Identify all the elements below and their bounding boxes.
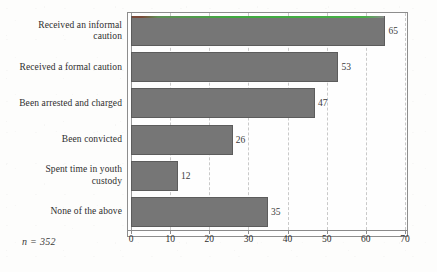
category-label: Received a formal caution [2,62,122,74]
x-axis-tick-labels: 010203040506070 [131,234,405,252]
category-label: Been convicted [2,134,122,146]
x-tick-label-20: 20 [205,234,215,244]
x-tick-label-10: 10 [165,234,175,244]
category-label-line: None of the above [2,206,122,218]
bar-value-label: 26 [233,134,246,144]
category-label: Received an informalcaution [2,20,122,43]
bar-row: 65 [131,16,405,46]
x-tick-label-30: 30 [244,234,254,244]
bar-row: 12 [131,161,405,191]
bar-row: 47 [131,88,405,118]
sample-size-annotation: n = 352 [22,236,56,247]
x-tick-label-0: 0 [129,234,134,244]
x-tick-label-70: 70 [400,234,410,244]
x-tick-label-60: 60 [361,234,371,244]
category-axis-labels: Received an informalcautionReceived a fo… [0,13,122,230]
gridline-70 [405,13,406,230]
category-label-line: Been arrested and charged [2,98,122,110]
bar-value-label: 65 [385,26,398,36]
category-label-line: Spent time in youth [2,164,122,176]
bar-row: 26 [131,125,405,155]
bar [131,197,268,227]
bar-row: 53 [131,52,405,82]
bar [131,16,385,46]
bar [131,125,233,155]
bar [131,52,338,82]
category-label-line: Received a formal caution [2,62,122,74]
bar-value-label: 12 [178,171,191,181]
x-tick-label-40: 40 [283,234,293,244]
bar-value-label: 47 [315,98,328,108]
category-label: Spent time in youthcustody [2,164,122,187]
bar [131,88,315,118]
x-tick-label-50: 50 [322,234,332,244]
bar-value-label: 53 [338,62,351,72]
category-label-line: custody [2,176,122,188]
category-label-line: caution [2,31,122,43]
category-label-line: Been convicted [2,134,122,146]
chart-page: Received an informalcautionReceived a fo… [0,0,437,272]
category-label: Been arrested and charged [2,98,122,110]
scan-artifact-stripe [132,16,384,18]
bar-row: 35 [131,197,405,227]
bar-value-label: 35 [268,207,281,217]
category-label: None of the above [2,206,122,218]
bar-series: 655347261235 [131,13,405,230]
category-label-line: Received an informal [2,20,122,32]
bar [131,161,178,191]
